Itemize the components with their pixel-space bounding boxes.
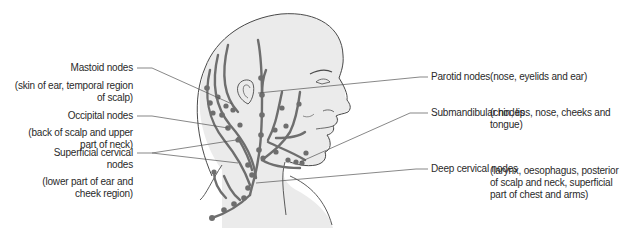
- superficial-cervical-line2: nodes: [0, 159, 133, 171]
- mastoid-desc-line1: (skin of ear, temporal region: [0, 80, 133, 92]
- mastoid-nodes-description: (skin of ear, temporal region of scalp): [0, 80, 133, 104]
- deep-cervical-desc-line1: (larynx, oesophagus, posterior: [490, 165, 619, 177]
- deep-cervical-desc-line2: of scalp and neck, superficial: [490, 177, 619, 189]
- submandibular-desc-line1: (chin, lips, nose, cheeks and: [490, 107, 610, 119]
- submandibular-desc-line2: tongue): [490, 119, 610, 131]
- deep-cervical-desc-line3: part of chest and arms): [490, 189, 619, 201]
- deep-cervical-nodes-description: (larynx, oesophagus, posterior of scalp …: [490, 165, 619, 201]
- lymph-node-diagram: Mastoid nodes (skin of ear, temporal reg…: [0, 0, 624, 233]
- superficial-cervical-desc-line2: cheek region): [0, 188, 133, 200]
- mastoid-nodes-label: Mastoid nodes: [71, 62, 133, 74]
- parotid-nodes-label: Parotid nodes: [431, 71, 490, 83]
- superficial-cervical-line1: Superficial cervical: [0, 147, 133, 159]
- superficial-cervical-nodes-label: Superficial cervical nodes: [0, 147, 133, 171]
- parotid-nodes-description: (nose, eyelids and ear): [490, 71, 587, 83]
- occipital-desc-line1: (back of scalp and upper: [0, 127, 133, 139]
- superficial-cervical-desc-line1: (lower part of ear and: [0, 176, 133, 188]
- submandibular-nodes-description: (chin, lips, nose, cheeks and tongue): [490, 107, 610, 131]
- neck-back: [200, 165, 222, 200]
- occipital-nodes-label: Occipital nodes: [68, 110, 133, 122]
- superficial-cervical-nodes-description: (lower part of ear and cheek region): [0, 176, 133, 200]
- mastoid-desc-line2: of scalp): [0, 92, 133, 104]
